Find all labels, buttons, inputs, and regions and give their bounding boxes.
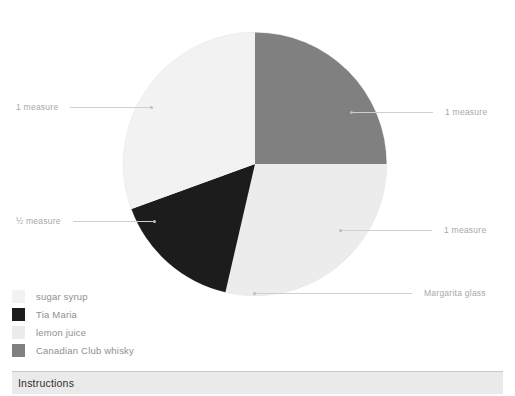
leader-line-tia-maria: [73, 221, 155, 222]
callout-margarita-glass: Margarita glass: [254, 287, 486, 299]
leader-line-margarita-glass: [254, 293, 412, 294]
callout-whisky: 1 measure: [351, 106, 487, 118]
legend-swatch-lemon-juice: [12, 326, 25, 339]
legend-item-sugar-syrup: sugar syrup: [12, 288, 232, 305]
legend-swatch-canadian-club-whisky: [12, 344, 25, 357]
instructions-title: Instructions: [18, 377, 74, 389]
legend-label-tia-maria: Tia Maria: [36, 309, 77, 320]
callout-lemon-juice: 1 measure: [340, 224, 486, 236]
leader-line-whisky: [351, 112, 433, 113]
callout-tia-maria: ½ measure: [16, 215, 155, 227]
legend-item-lemon-juice: lemon juice: [12, 324, 232, 341]
pie-slice-canadian-club-whisky: [255, 33, 387, 165]
leader-line-sugar-syrup: [70, 107, 152, 108]
legend-label-lemon-juice: lemon juice: [36, 327, 86, 338]
callout-tia-maria-label: ½ measure: [16, 215, 61, 227]
callout-sugar-syrup-label: 1 measure: [16, 101, 58, 113]
pie-slice-group: [123, 33, 386, 296]
legend-swatch-sugar-syrup: [12, 290, 25, 303]
legend-swatch-tia-maria: [12, 308, 25, 321]
legend-item-tia-maria: Tia Maria: [12, 306, 232, 323]
legend-label-sugar-syrup: sugar syrup: [36, 291, 88, 302]
legend: sugar syrup Tia Maria lemon juice Canadi…: [12, 288, 232, 360]
callout-lemon-juice-label: 1 measure: [444, 224, 486, 236]
leader-line-lemon-juice: [340, 230, 432, 231]
callout-whisky-label: 1 measure: [445, 106, 487, 118]
legend-item-canadian-club-whisky: Canadian Club whisky: [12, 342, 232, 359]
pie-chart-svg: [123, 32, 387, 296]
callout-margarita-glass-label: Margarita glass: [424, 287, 486, 299]
callout-sugar-syrup: 1 measure: [16, 101, 152, 113]
pie-chart: [123, 32, 387, 296]
legend-label-canadian-club-whisky: Canadian Club whisky: [36, 345, 134, 356]
instructions-section-header: Instructions: [12, 371, 503, 394]
